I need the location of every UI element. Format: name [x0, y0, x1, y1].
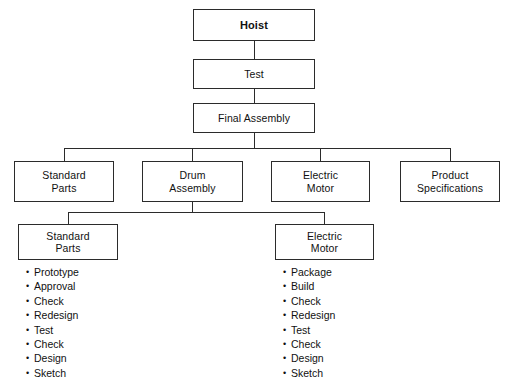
connector-drop-standard-parts-2 [68, 212, 69, 224]
node-standard-parts-2-label: Standard Parts [46, 230, 89, 255]
node-product-specifications-label: Product Specifications [417, 169, 483, 194]
list-item: Redesign [283, 308, 335, 322]
node-final-assembly-label: Final Assembly [218, 112, 290, 125]
connector-test-to-final-assembly [254, 89, 255, 103]
connector-drop-product-specifications [450, 148, 451, 161]
list-item: Design [283, 351, 335, 365]
connector-level4-bus [64, 148, 451, 149]
connector-drop-drum-assembly [192, 148, 193, 161]
list-item: Package [283, 265, 335, 279]
node-hoist-label: Hoist [240, 19, 268, 32]
list-item: Sketch [26, 366, 79, 380]
list-electric-motor-tasks: Package Build Check Redesign Test Check … [283, 265, 335, 380]
node-electric-motor[interactable]: Electric Motor [271, 161, 370, 202]
connector-level5-bus [68, 212, 325, 213]
node-hoist[interactable]: Hoist [193, 9, 315, 41]
list-item: Design [26, 351, 79, 365]
node-final-assembly[interactable]: Final Assembly [193, 103, 315, 133]
list-standard-parts-tasks: Prototype Approval Check Redesign Test C… [26, 265, 79, 380]
node-standard-parts-label: Standard Parts [42, 169, 85, 194]
connector-hoist-to-test [254, 41, 255, 59]
wbs-diagram: Hoist Test Final Assembly Standard Parts… [0, 0, 513, 383]
connector-final-assembly-trunk [254, 133, 255, 149]
list-item: Test [283, 323, 335, 337]
connector-drop-electric-motor [320, 148, 321, 161]
node-standard-parts-2[interactable]: Standard Parts [18, 224, 118, 260]
list-item: Prototype [26, 265, 79, 279]
node-electric-motor-2[interactable]: Electric Motor [275, 224, 374, 260]
node-test[interactable]: Test [193, 59, 315, 89]
node-test-label: Test [244, 68, 264, 81]
list-item: Sketch [283, 366, 335, 380]
connector-drop-electric-motor-2 [324, 212, 325, 224]
list-item: Test [26, 323, 79, 337]
list-item: Redesign [26, 308, 79, 322]
list-item: Build [283, 279, 335, 293]
list-item: Approval [26, 279, 79, 293]
list-item: Check [26, 294, 79, 308]
connector-drop-standard-parts [64, 148, 65, 161]
node-electric-motor-2-label: Electric Motor [307, 230, 342, 255]
list-item: Check [283, 294, 335, 308]
node-drum-assembly-label: Drum Assembly [169, 169, 215, 194]
node-standard-parts[interactable]: Standard Parts [14, 161, 114, 202]
list-item: Check [26, 337, 79, 351]
node-drum-assembly[interactable]: Drum Assembly [142, 161, 243, 202]
node-product-specifications[interactable]: Product Specifications [400, 161, 500, 202]
node-electric-motor-label: Electric Motor [303, 169, 338, 194]
list-item: Check [283, 337, 335, 351]
